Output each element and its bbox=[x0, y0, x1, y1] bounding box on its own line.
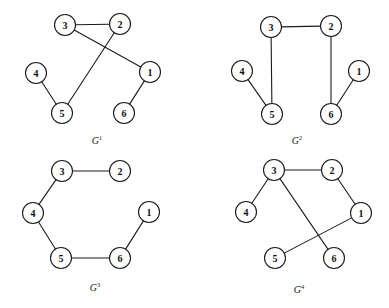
node-label-5: 5 bbox=[270, 109, 275, 120]
node-label-5: 5 bbox=[60, 108, 65, 119]
graph-node-1[interactable]: 1 bbox=[351, 203, 372, 224]
graph-caption-g2: G2 bbox=[292, 133, 302, 145]
node-label-3: 3 bbox=[60, 166, 65, 177]
graph-node-3[interactable]: 3 bbox=[264, 160, 285, 181]
graph-edge-3-4 bbox=[252, 179, 268, 204]
edge-layer bbox=[248, 26, 353, 105]
node-label-4: 4 bbox=[240, 66, 245, 77]
graph-node-6[interactable]: 6 bbox=[110, 248, 131, 269]
graph-node-2[interactable]: 2 bbox=[110, 161, 131, 182]
graph-g1: 324156G1 bbox=[26, 14, 161, 146]
graph-edge-1-6 bbox=[130, 81, 145, 104]
node-label-2: 2 bbox=[330, 165, 335, 176]
caption-letter: G bbox=[294, 284, 301, 295]
node-label-6: 6 bbox=[122, 108, 127, 119]
node-label-4: 4 bbox=[34, 68, 39, 79]
graph-node-6[interactable]: 6 bbox=[324, 248, 345, 269]
node-layer: 324156 bbox=[26, 14, 161, 124]
graph-g4: 324156G4 bbox=[236, 160, 372, 295]
graph-edge-3-2 bbox=[76, 24, 110, 25]
graph-node-1[interactable]: 1 bbox=[139, 202, 160, 223]
graph-figure: 324156G1324156G2324156G3324156G4 bbox=[0, 0, 389, 308]
node-label-6: 6 bbox=[332, 253, 337, 264]
caption-superscript: 4 bbox=[301, 282, 304, 289]
graph-g2: 324156G2 bbox=[232, 16, 370, 146]
graph-edge-4-5 bbox=[42, 82, 57, 104]
node-label-1: 1 bbox=[147, 207, 152, 218]
graph-edge-4-5 bbox=[39, 222, 56, 249]
node-label-2: 2 bbox=[329, 21, 334, 32]
graph-edge-4-5 bbox=[248, 80, 266, 106]
graph-node-4[interactable]: 4 bbox=[232, 61, 253, 82]
graph-node-3[interactable]: 3 bbox=[52, 161, 73, 182]
caption-letter: G bbox=[92, 135, 99, 146]
graph-node-6[interactable]: 6 bbox=[114, 103, 135, 124]
node-label-4: 4 bbox=[31, 208, 36, 219]
graph-edge-1-5 bbox=[284, 218, 351, 253]
graph-edge-3-2 bbox=[282, 26, 321, 27]
node-label-6: 6 bbox=[329, 109, 334, 120]
graph-edge-6-1 bbox=[126, 221, 144, 249]
graph-edge-3-4 bbox=[39, 180, 56, 205]
graph-node-5[interactable]: 5 bbox=[265, 248, 286, 269]
graph-edge-2-5 bbox=[68, 33, 115, 104]
graph-node-6[interactable]: 6 bbox=[321, 104, 342, 125]
graph-g3: 324156G3 bbox=[23, 161, 160, 293]
node-label-3: 3 bbox=[269, 22, 274, 33]
graph-caption-g4: G4 bbox=[294, 282, 304, 294]
node-label-2: 2 bbox=[118, 19, 123, 30]
graph-node-1[interactable]: 1 bbox=[140, 62, 161, 83]
graph-node-5[interactable]: 5 bbox=[262, 104, 283, 125]
graph-node-5[interactable]: 5 bbox=[51, 248, 72, 269]
graph-node-4[interactable]: 4 bbox=[23, 203, 44, 224]
graph-node-5[interactable]: 5 bbox=[52, 103, 73, 124]
graph-edge-3-5 bbox=[271, 38, 272, 104]
graph-node-1[interactable]: 1 bbox=[349, 61, 370, 82]
graph-node-4[interactable]: 4 bbox=[236, 202, 257, 223]
graph-edge-3-6 bbox=[280, 179, 328, 250]
caption-letter: G bbox=[292, 135, 299, 146]
edge-layer bbox=[42, 24, 145, 104]
caption-superscript: 3 bbox=[97, 280, 100, 287]
caption-superscript: 1 bbox=[99, 133, 102, 140]
graph-node-2[interactable]: 2 bbox=[322, 160, 343, 181]
graph-edge-1-6 bbox=[337, 80, 354, 105]
graph-edge-2-1 bbox=[338, 179, 355, 205]
caption-letter: G bbox=[90, 282, 97, 293]
edge-layer bbox=[252, 170, 355, 253]
caption-superscript: 2 bbox=[299, 133, 302, 140]
node-layer: 324156 bbox=[23, 161, 160, 269]
node-layer: 324156 bbox=[232, 16, 370, 125]
graph-caption-g1: G1 bbox=[92, 133, 102, 145]
graph-node-2[interactable]: 2 bbox=[321, 16, 342, 37]
node-label-3: 3 bbox=[63, 20, 68, 31]
graph-edge-3-1 bbox=[74, 30, 141, 67]
node-label-4: 4 bbox=[244, 207, 249, 218]
graph-node-4[interactable]: 4 bbox=[26, 63, 47, 84]
graph-caption-g3: G3 bbox=[90, 280, 100, 292]
graph-node-3[interactable]: 3 bbox=[261, 17, 282, 38]
node-label-2: 2 bbox=[118, 166, 123, 177]
graph-node-2[interactable]: 2 bbox=[110, 14, 131, 35]
node-label-1: 1 bbox=[357, 66, 362, 77]
edge-layer bbox=[39, 171, 144, 258]
node-label-5: 5 bbox=[273, 253, 278, 264]
graph-node-3[interactable]: 3 bbox=[55, 15, 76, 36]
node-label-1: 1 bbox=[359, 208, 364, 219]
node-label-1: 1 bbox=[148, 67, 153, 78]
node-label-6: 6 bbox=[118, 253, 123, 264]
graph-canvas: 324156G1324156G2324156G3324156G4 bbox=[0, 0, 389, 308]
node-label-5: 5 bbox=[59, 253, 64, 264]
node-label-3: 3 bbox=[272, 165, 277, 176]
